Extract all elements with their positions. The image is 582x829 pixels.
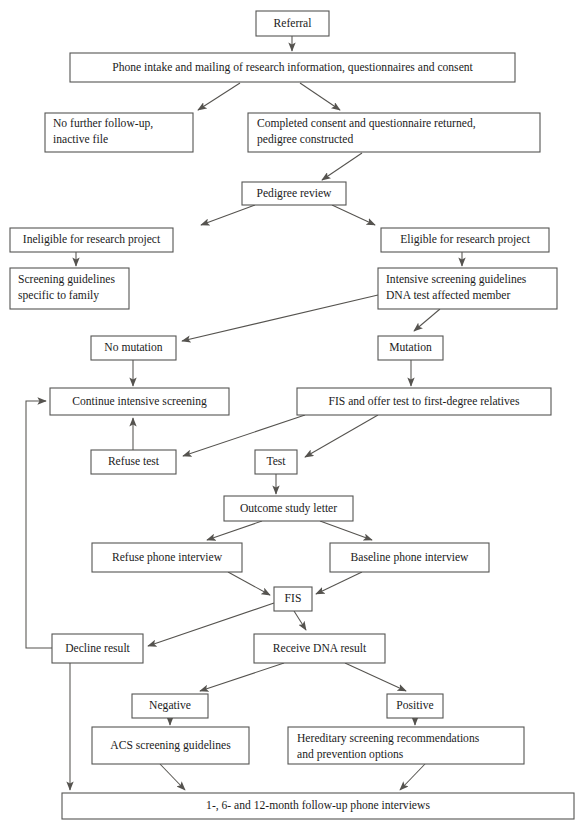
node-screening-guidelines-label-line1: Screening guidelines [18,273,115,286]
node-completed-consent-label-line1: Completed consent and questionnaire retu… [257,117,476,130]
edge-acs-guidelines-to-followup [160,764,185,790]
edge-phone-intake-to-completed-consent [300,83,340,110]
node-ineligible-label: Ineligible for research project [23,233,161,246]
node-mutation-label: Mutation [389,341,432,354]
node-positive[interactable]: Positive [387,694,443,718]
node-positive-label: Positive [396,699,433,712]
node-negative[interactable]: Negative [132,694,208,718]
node-outcome-letter[interactable]: Outcome study letter [224,496,353,521]
node-continue-screening-label: Continue intensive screening [72,395,207,408]
edge-fis-offer-test-to-test [305,415,378,457]
edge-outcome-letter-to-refuse-phone [207,521,262,540]
node-hereditary-recommendations-label-line2: and prevention options [297,748,404,761]
edge-completed-consent-to-pedigree-review [322,153,362,180]
node-hereditary-recommendations-label-line1: Hereditary screening recommendations [297,732,480,745]
node-fis-label: FIS [285,592,302,605]
node-baseline-phone-interview-label: Baseline phone interview [351,551,469,564]
node-completed-consent[interactable]: Completed consent and questionnaire retu… [248,113,540,152]
node-continue-screening[interactable]: Continue intensive screening [50,388,229,415]
node-refuse-phone-interview[interactable]: Refuse phone interview [92,543,242,572]
edge-phone-intake-to-no-follow-up [198,83,240,110]
node-no-mutation-label: No mutation [104,341,162,354]
node-refuse-phone-interview-label: Refuse phone interview [112,551,223,564]
node-phone-intake[interactable]: Phone intake and mailing of research inf… [70,53,515,82]
node-no-further-follow-up-label-line2: inactive file [53,133,108,146]
node-fis-offer-test[interactable]: FIS and offer test to first-degree relat… [297,388,551,415]
node-screening-guidelines[interactable]: Screening guidelines specific to family [10,268,129,309]
node-test[interactable]: Test [255,450,297,474]
node-decline-result-label: Decline result [65,642,130,655]
node-hereditary-recommendations[interactable]: Hereditary screening recommendations and… [288,727,524,764]
flowchart-diagram: Referral Phone intake and mailing of res… [0,0,582,829]
node-mutation[interactable]: Mutation [378,336,443,360]
node-intensive-screening-label-line1: Intensive screening guidelines [386,273,527,286]
edge-refuse-phone-to-fis [228,572,270,595]
node-followup-interviews-label: 1-, 6- and 12-month follow-up phone inte… [206,799,430,812]
node-intensive-screening-label-line2: DNA test affected member [386,289,511,302]
edge-baseline-phone-to-fis [316,572,362,594]
edge-intensive-screening-to-mutation [414,309,440,331]
node-ineligible[interactable]: Ineligible for research project [10,228,173,252]
edge-receive-dna-result-to-positive [345,663,406,691]
node-referral-label: Referral [274,17,312,30]
node-refuse-test-label: Refuse test [108,455,160,468]
node-screening-guidelines-label-line2: specific to family [18,289,99,302]
node-baseline-phone-interview[interactable]: Baseline phone interview [330,543,489,572]
node-intensive-screening[interactable]: Intensive screening guidelines DNA test … [378,268,557,309]
flowchart-canvas: Referral Phone intake and mailing of res… [0,0,582,829]
node-phone-intake-label: Phone intake and mailing of research inf… [112,61,473,74]
edge-fis-to-receive-dna-result [294,611,306,630]
node-eligible-label: Eligible for research project [400,233,531,246]
node-no-mutation[interactable]: No mutation [91,336,176,360]
node-test-label: Test [266,455,286,468]
node-negative-label: Negative [149,699,191,712]
node-receive-dna-result-label: Receive DNA result [273,642,367,655]
node-acs-guidelines[interactable]: ACS screening guidelines [92,727,249,764]
node-acs-guidelines-label: ACS screening guidelines [110,739,231,752]
edge-receive-dna-result-to-negative [200,663,284,691]
node-completed-consent-label-line2: pedigree constructed [257,133,353,146]
node-outcome-letter-label: Outcome study letter [240,502,337,515]
node-no-further-follow-up[interactable]: No further follow-up, inactive file [45,113,193,152]
node-layer: Referral Phone intake and mailing of res… [10,11,574,819]
node-referral[interactable]: Referral [256,11,329,36]
node-fis-offer-test-label: FIS and offer test to first-degree relat… [328,395,520,408]
edge-hereditary-to-followup [400,764,425,790]
node-followup-interviews[interactable]: 1-, 6- and 12-month follow-up phone inte… [62,793,574,819]
edge-intensive-screening-to-no-mutation [182,295,378,341]
node-eligible[interactable]: Eligible for research project [381,228,549,252]
edge-pedigree-review-to-eligible [332,205,375,225]
node-no-further-follow-up-label-line1: No further follow-up, [53,117,153,130]
node-pedigree-review[interactable]: Pedigree review [242,182,346,205]
node-receive-dna-result[interactable]: Receive DNA result [254,634,385,663]
node-refuse-test[interactable]: Refuse test [91,450,176,474]
edge-pedigree-review-to-ineligible [201,205,255,225]
edge-outcome-letter-to-baseline-phone [320,521,372,540]
node-decline-result[interactable]: Decline result [52,634,143,663]
node-pedigree-review-label: Pedigree review [256,187,332,200]
edge-loop-decline-to-continue-screening [26,401,52,648]
node-fis[interactable]: FIS [274,587,312,611]
